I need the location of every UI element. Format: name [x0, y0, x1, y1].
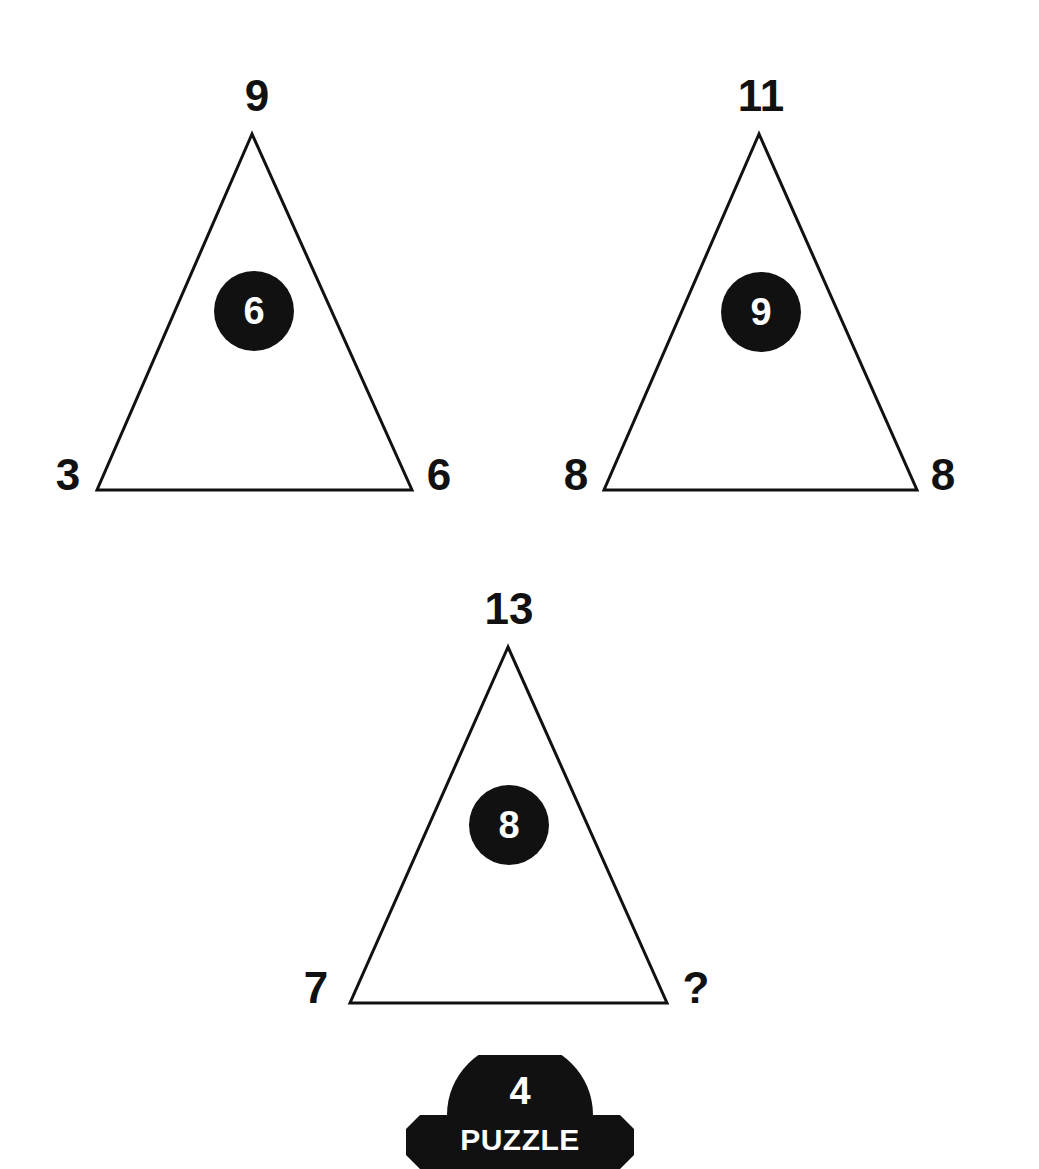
- triangle-1-center-number: 6: [243, 292, 264, 330]
- triangle-2-center-number: 9: [750, 293, 771, 331]
- triangle-3-center-circle: 8: [469, 785, 549, 865]
- triangle-1-top-number: 9: [245, 74, 269, 118]
- triangle-3-top-number: 13: [485, 587, 534, 631]
- badge-label: PUZZLE: [460, 1125, 580, 1155]
- triangle-3-center-number: 8: [498, 806, 519, 844]
- triangle-2-left-number: 8: [564, 453, 588, 497]
- triangle-2-right-number: 8: [931, 453, 955, 497]
- badge-number: 4: [509, 1072, 530, 1110]
- triangle-3-right-unknown: ?: [683, 966, 710, 1010]
- puzzle-number-badge: 4 PUZZLE: [400, 1055, 640, 1169]
- triangle-2-center-circle: 9: [721, 272, 801, 352]
- triangle-1-right-number: 6: [427, 453, 451, 497]
- triangle-3-left-number: 7: [304, 966, 328, 1010]
- triangle-1-left-number: 3: [56, 453, 80, 497]
- triangle-2-top-number: 11: [738, 74, 785, 118]
- triangle-1-center-circle: 6: [214, 271, 294, 351]
